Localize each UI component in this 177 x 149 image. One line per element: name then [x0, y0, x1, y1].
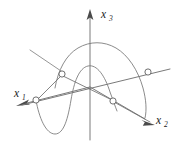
axis-label-x2-subscript: 2 [164, 120, 168, 129]
axis-label-x3-group: x 3 [100, 8, 113, 23]
axis-label-x3-subscript: 3 [108, 14, 113, 23]
node-right-on-x2 [145, 69, 151, 75]
axis-label-x1-subscript: 1 [22, 93, 26, 102]
node-left-on-x1 [33, 97, 39, 103]
back-sine-path [55, 43, 146, 118]
tangent-upper-left [30, 50, 64, 73]
chord-lower-right-to-x2 [114, 102, 150, 122]
front-sine-path [36, 66, 117, 134]
node-lower-right-on-x2 [110, 98, 116, 104]
front-sine-curve [36, 66, 117, 134]
back-sine-curve [55, 43, 146, 118]
axis-label-x2-group: x 2 [155, 114, 168, 129]
node-upper-left-peak [59, 71, 65, 77]
axis-label-x1-group: x 1 [13, 87, 26, 102]
figure-container: x 1 x 2 x 3 [0, 0, 177, 149]
axis-label-x1-base: x [13, 87, 20, 99]
tangent-upper-left-line [30, 50, 64, 73]
axis-x3 [87, 9, 94, 140]
axis-label-x3-base: x [100, 8, 107, 20]
chord-lower-right-to-x2-line [114, 102, 150, 122]
axis-x1 [16, 87, 90, 106]
axis-label-x2-base: x [155, 114, 162, 126]
vector-figure: x 1 x 2 x 3 [0, 0, 177, 149]
